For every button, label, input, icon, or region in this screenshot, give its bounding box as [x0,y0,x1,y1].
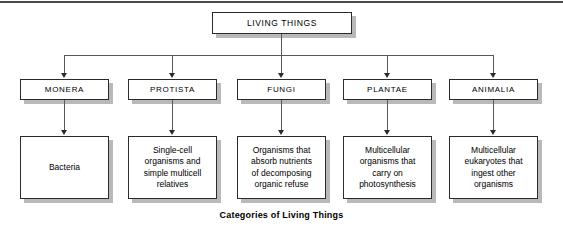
description-line: organisms and [132,156,213,168]
description-lines-fungi: Organisms that absorb nutrients of decom… [241,145,322,191]
description-lines-monera: Bacteria [24,162,105,174]
connector-protista-to-description [172,100,173,131]
description-line: organisms that [347,156,428,168]
arrowhead-animalia [490,73,496,78]
connector-fungi-to-description [281,100,282,131]
figure-caption: Categories of Living Things [0,210,563,220]
root-node-label: LIVING THINGS [247,18,317,28]
description-line: relatives [132,179,213,191]
arrowhead-monera [61,73,67,78]
description-line: of decomposing [241,168,322,180]
kingdom-box-monera: MONERA [20,79,109,100]
connector-drop-animalia [493,55,494,74]
description-box-plantae: Multicellular organisms that carry on ph… [343,136,432,199]
kingdom-box-plantae: PLANTAE [343,79,432,100]
description-line: organisms [453,179,534,191]
kingdom-box-animalia: ANIMALIA [449,79,538,100]
description-line: Multicellular [453,145,534,157]
connector-distribution-bar [64,55,494,56]
description-line: photosynthesis [347,179,428,191]
description-box-animalia: Multicellular eukaryotes that ingest oth… [449,136,538,199]
description-box-fungi: Organisms that absorb nutrients of decom… [237,136,326,199]
description-line: ingest other [453,168,534,180]
arrowhead-plantae-description [384,130,390,135]
description-line: absorb nutrients [241,156,322,168]
description-box-protista: Single-cell organisms and simple multice… [128,136,217,199]
arrowhead-monera-description [61,130,67,135]
description-line: Multicellular [347,145,428,157]
description-line: Organisms that [241,145,322,157]
description-lines-protista: Single-cell organisms and simple multice… [132,145,213,191]
top-divider-rule [0,1,563,3]
root-node-living-things: LIVING THINGS [212,12,352,34]
description-lines-plantae: Multicellular organisms that carry on ph… [347,145,428,191]
kingdom-label-plantae: PLANTAE [367,85,408,94]
arrowhead-fungi-description [278,130,284,135]
arrowhead-animalia-description [490,130,496,135]
connector-root-stem [281,34,282,55]
connector-drop-monera [64,55,65,74]
kingdom-label-animalia: ANIMALIA [472,85,515,94]
description-line: simple multicell [132,168,213,180]
arrowhead-protista [169,73,175,78]
description-line: Single-cell [132,145,213,157]
connector-drop-fungi [281,55,282,74]
description-lines-animalia: Multicellular eukaryotes that ingest oth… [453,145,534,191]
connector-drop-plantae [387,55,388,74]
description-line: eukaryotes that [453,156,534,168]
arrowhead-fungi [278,73,284,78]
connector-drop-protista [172,55,173,74]
kingdom-box-protista: PROTISTA [128,79,217,100]
kingdom-label-protista: PROTISTA [150,85,195,94]
connector-plantae-to-description [387,100,388,131]
connector-monera-to-description [64,100,65,131]
diagram-canvas: LIVING THINGS MONERA PROTISTA FUNGI PLAN… [0,0,563,241]
arrowhead-protista-description [169,130,175,135]
arrowhead-plantae [384,73,390,78]
description-line: carry on [347,168,428,180]
description-line: organic refuse [241,179,322,191]
kingdom-label-monera: MONERA [45,85,84,94]
connector-animalia-to-description [493,100,494,131]
kingdom-label-fungi: FUNGI [267,85,295,94]
description-box-monera: Bacteria [20,136,109,199]
description-line: Bacteria [24,162,105,174]
kingdom-box-fungi: FUNGI [237,79,326,100]
